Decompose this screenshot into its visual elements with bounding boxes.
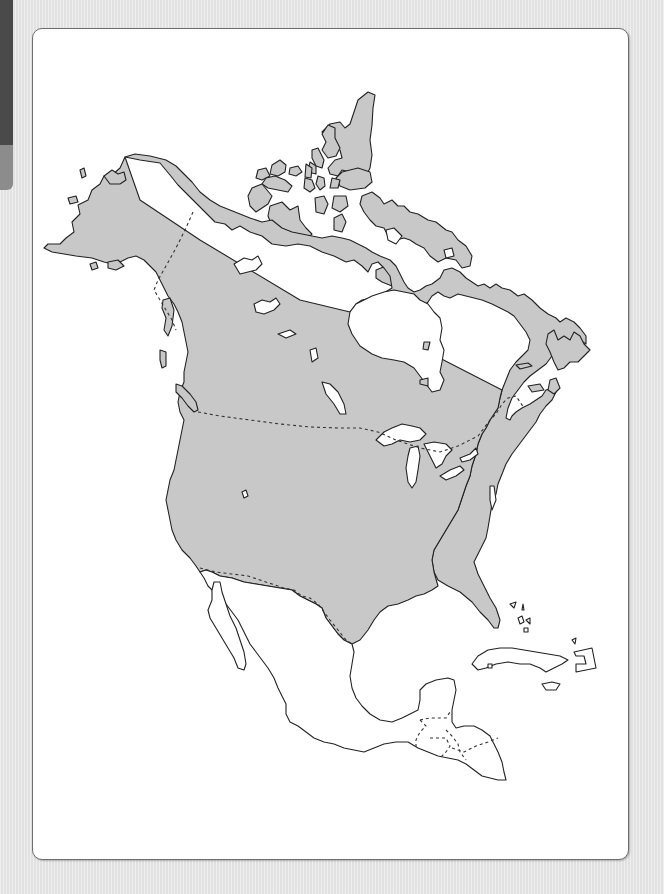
arctic-archipelago xyxy=(248,92,472,298)
alaska-north-island xyxy=(80,168,86,178)
north-america-outline-map xyxy=(0,0,664,894)
kodiak-island xyxy=(90,262,98,270)
bahamas-4 xyxy=(526,618,530,624)
arctic-island-8 xyxy=(304,178,315,192)
arctic-island-9 xyxy=(316,176,325,190)
prince-edward-island xyxy=(528,384,544,392)
somerset-island xyxy=(334,214,346,232)
cuba xyxy=(472,648,568,672)
bahamas-2 xyxy=(522,604,524,610)
bahamas-5 xyxy=(524,628,528,632)
jamaica xyxy=(542,682,560,690)
arctic-island-11 xyxy=(332,196,348,212)
arctic-island-10 xyxy=(330,178,340,188)
hispaniola xyxy=(574,648,596,672)
akimiski-island xyxy=(420,378,428,386)
bahamas-1 xyxy=(510,602,516,608)
nettilling-lake xyxy=(444,248,454,258)
arctic-island-4 xyxy=(270,160,286,176)
great-bear-lake xyxy=(234,256,262,274)
cape-breton-island xyxy=(548,378,560,394)
bahamas-3 xyxy=(518,616,524,624)
arctic-island-6 xyxy=(289,166,302,176)
isle-of-youth xyxy=(488,664,492,668)
st-lawrence-island xyxy=(68,196,78,204)
prince-of-wales-island xyxy=(315,196,328,214)
alexander-archipelago xyxy=(162,298,174,336)
turks-caicos xyxy=(572,638,576,644)
haida-gwaii xyxy=(160,350,166,368)
